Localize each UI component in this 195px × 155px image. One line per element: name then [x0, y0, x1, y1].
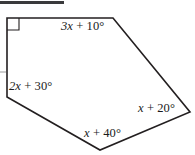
- angle-label-left-variable: 2x: [9, 79, 21, 93]
- angle-label-top-value: + 10°: [73, 19, 104, 33]
- angle-label-bottom-value: + 40°: [90, 126, 121, 140]
- angle-label-right: x + 20°: [138, 101, 175, 116]
- angle-label-top: 3x + 10°: [61, 19, 104, 34]
- angle-label-left-value: + 30°: [21, 79, 52, 93]
- angle-label-right-value: + 20°: [144, 101, 175, 115]
- geometry-figure: 3x + 10° 2x + 30° x + 20° x + 40°: [0, 0, 195, 155]
- angle-label-top-variable: 3x: [61, 19, 73, 33]
- angle-label-left: 2x + 30°: [9, 79, 52, 94]
- angle-label-bottom: x + 40°: [84, 126, 121, 141]
